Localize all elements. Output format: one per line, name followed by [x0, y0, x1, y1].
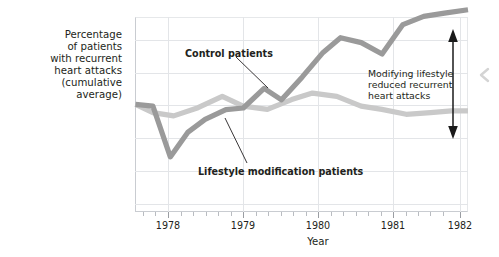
x-tick-1979: 1979	[231, 220, 255, 231]
x-minor-tick	[306, 212, 307, 216]
x-minor-tick	[181, 212, 182, 216]
y-axis-title-line: average)	[14, 89, 122, 101]
x-minor-tick	[193, 212, 194, 216]
x-major-tick	[460, 212, 461, 218]
x-minor-tick	[418, 212, 419, 216]
gridline-h-3	[135, 138, 468, 139]
y-axis-title-line: of patients	[14, 41, 122, 53]
x-minor-tick	[206, 212, 207, 216]
y-axis-title: Percentage of patients with recurrent he…	[14, 29, 122, 100]
x-minor-tick	[406, 212, 407, 216]
x-minor-tick	[430, 212, 431, 216]
series-label-lifestyle: Lifestyle modification patients	[198, 166, 363, 177]
range-annotation-text: Modifying lifestyle reduced recurrent he…	[368, 68, 453, 102]
x-minor-tick	[293, 212, 294, 216]
x-minor-tick	[343, 212, 344, 216]
x-minor-tick	[268, 212, 269, 216]
x-tick-1982: 1982	[448, 220, 472, 231]
y-axis-title-line: with recurrent	[14, 53, 122, 65]
chevron-left-icon	[478, 67, 492, 83]
x-major-tick	[318, 212, 319, 218]
x-minor-tick	[143, 212, 144, 216]
x-minor-tick	[368, 212, 369, 216]
range-annotation-line: Modifying lifestyle	[368, 68, 453, 79]
gridline-v-1980	[318, 17, 319, 212]
x-tick-1978: 1978	[156, 220, 180, 231]
x-minor-tick	[281, 212, 282, 216]
range-annotation-line: reduced recurrent	[368, 79, 453, 90]
y-axis-title-line: Percentage	[14, 29, 122, 41]
x-minor-tick	[443, 212, 444, 216]
gridline-h-1	[135, 204, 468, 205]
x-minor-tick	[218, 212, 219, 216]
series-label-control: Control patients	[185, 48, 273, 59]
x-major-tick	[243, 212, 244, 218]
x-minor-tick	[331, 212, 332, 216]
x-minor-tick	[155, 212, 156, 216]
x-tick-1980: 1980	[306, 220, 330, 231]
gridline-v-1979	[243, 17, 244, 212]
x-minor-tick	[231, 212, 232, 216]
y-axis-title-line: heart attacks	[14, 65, 122, 77]
gridline-h-4	[135, 105, 468, 106]
x-minor-tick	[256, 212, 257, 216]
plot-frame	[135, 17, 468, 212]
gridline-v-1978	[168, 17, 169, 212]
x-axis-title: Year	[307, 236, 329, 247]
plot-area	[135, 17, 468, 212]
gridline-v-1982	[460, 17, 461, 212]
gridline-v-1981	[393, 17, 394, 212]
range-annotation-line: heart attacks	[368, 90, 453, 101]
x-major-tick	[393, 212, 394, 218]
chart-figure: Percentage of patients with recurrent he…	[0, 0, 499, 257]
gridline-h-6	[135, 40, 468, 41]
x-major-tick	[168, 212, 169, 218]
y-axis-title-line: (cumulative	[14, 77, 122, 89]
x-minor-tick	[356, 212, 357, 216]
x-tick-1981: 1981	[381, 220, 405, 231]
x-minor-tick	[381, 212, 382, 216]
